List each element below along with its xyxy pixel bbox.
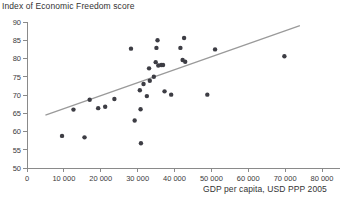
y-tick-label: 90 (13, 18, 21, 27)
x-tick-label: 60 000 (237, 174, 260, 183)
data-point (132, 118, 136, 122)
x-tick-label: 40 000 (163, 174, 186, 183)
y-tick-label: 50 (13, 164, 21, 173)
y-tick-label: 60 (13, 127, 21, 136)
x-axis-ticks (27, 168, 322, 172)
x-tick-label: 80 000 (311, 174, 334, 183)
data-point (103, 104, 107, 108)
data-point (162, 89, 166, 93)
y-tick-label: 80 (13, 54, 21, 63)
data-point (60, 134, 64, 138)
data-point (148, 79, 152, 83)
data-point (138, 107, 142, 111)
y-tick-label: 85 (13, 36, 21, 45)
y-tick-label: 75 (13, 73, 21, 82)
data-point (213, 47, 217, 51)
y-tick-label: 65 (13, 109, 21, 118)
data-point (82, 135, 86, 139)
data-point (139, 141, 143, 145)
scatter-plot: 505560657075808590 010 00020 00030 00040… (0, 0, 352, 206)
x-tick-label: 70 000 (274, 174, 297, 183)
x-tick-label: 50 000 (200, 174, 223, 183)
y-axis-ticks (23, 22, 27, 168)
source-caption (36, 201, 348, 206)
data-point (183, 60, 187, 64)
y-tick-label: 70 (13, 91, 21, 100)
data-point (169, 92, 173, 96)
x-axis-tick-labels: 010 00020 00030 00040 00050 00060 00070 … (25, 174, 334, 183)
data-point (282, 54, 286, 58)
data-point (147, 66, 151, 70)
y-axis-tick-labels: 505560657075808590 (13, 18, 21, 173)
data-point (145, 94, 149, 98)
data-point (178, 46, 182, 50)
data-point (87, 98, 91, 102)
data-point (182, 36, 186, 40)
data-point (152, 75, 156, 79)
x-tick-label: 20 000 (89, 174, 112, 183)
data-point (141, 82, 145, 86)
data-point (161, 63, 165, 67)
data-point (154, 46, 158, 50)
x-tick-label: 30 000 (126, 174, 149, 183)
data-point (138, 88, 142, 92)
data-point (96, 106, 100, 110)
x-axis-label: GDP per capita, USD PPP 2005 (203, 184, 327, 194)
x-tick-label: 0 (25, 174, 29, 183)
data-points (60, 36, 287, 146)
data-point (112, 97, 116, 101)
chart-container: Index of Economic Freedom score 50556065… (0, 0, 352, 206)
data-point (71, 107, 75, 111)
trend-line (45, 26, 299, 115)
data-point (129, 46, 133, 50)
y-tick-label: 55 (13, 146, 21, 155)
data-point (205, 92, 209, 96)
x-tick-label: 10 000 (52, 174, 75, 183)
data-point (155, 38, 159, 42)
